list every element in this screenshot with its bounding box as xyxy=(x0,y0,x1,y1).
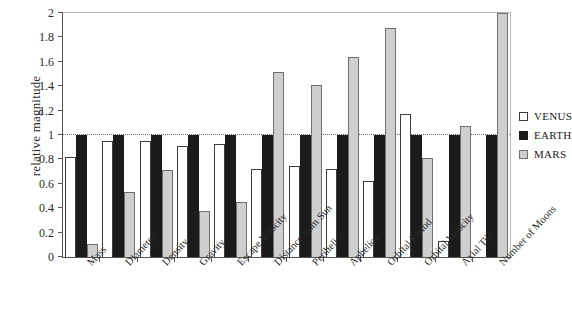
bar-earth[interactable] xyxy=(225,135,236,257)
bar-earth[interactable] xyxy=(188,135,199,257)
y-axis-tick-label: 1.8 xyxy=(39,30,54,45)
bar-group xyxy=(138,13,175,257)
bar-mars[interactable] xyxy=(385,28,396,257)
bar-group xyxy=(324,13,361,257)
x-axis-label: Orbital Period xyxy=(385,260,393,268)
x-axis-label: Distance from Sun xyxy=(272,260,280,268)
legend: VENUSEARTHMARS xyxy=(519,108,572,165)
legend-label: EARTH xyxy=(534,129,572,141)
bar-group xyxy=(473,13,510,257)
y-axis-tick-label: 1 xyxy=(48,128,54,143)
bar-venus[interactable] xyxy=(102,141,113,257)
x-axis-label: Number of Moons xyxy=(497,260,505,268)
x-axis-label: Mass xyxy=(85,260,93,268)
x-axis-label: Escape Velocity xyxy=(235,260,243,268)
legend-swatch-venus-icon xyxy=(519,112,528,121)
x-axis-label: Aphelion xyxy=(347,260,355,268)
bar-mars[interactable] xyxy=(497,13,508,257)
bar-earth[interactable] xyxy=(76,135,87,257)
x-axis-labels: MassDiameterDensityGravityEscape Velocit… xyxy=(62,258,511,324)
x-axis-label: Gravity xyxy=(197,260,205,268)
y-axis-tick-label: 1.6 xyxy=(39,54,54,69)
bar-mars[interactable] xyxy=(422,158,433,257)
x-axis-label: Axial Tilt xyxy=(459,260,467,268)
bar-group xyxy=(63,13,100,257)
bar-group xyxy=(212,13,249,257)
bar-venus[interactable] xyxy=(65,157,76,257)
y-axis-tick-label: 0.4 xyxy=(39,201,54,216)
bar-group xyxy=(361,13,398,257)
bar-mars[interactable] xyxy=(348,57,359,257)
legend-swatch-mars-icon xyxy=(519,150,528,159)
x-axis-label: Orbital Velocity xyxy=(422,260,430,268)
legend-item-earth[interactable]: EARTH xyxy=(519,127,572,143)
y-axis-tick-label: 0.8 xyxy=(39,152,54,167)
plot-frame: 00.20.40.60.811.21.41.61.82 xyxy=(62,12,511,258)
legend-swatch-earth-icon xyxy=(519,131,528,140)
legend-label: MARS xyxy=(534,148,566,160)
bar-group xyxy=(175,13,212,257)
y-axis-tick-label: 1.2 xyxy=(39,103,54,118)
legend-item-venus[interactable]: VENUS xyxy=(519,108,572,124)
bar-mars[interactable] xyxy=(162,170,173,257)
y-axis-tick-label: 0.2 xyxy=(39,225,54,240)
bar-earth[interactable] xyxy=(113,135,124,257)
x-axis-label: Perihelion xyxy=(310,260,318,268)
legend-item-mars[interactable]: MARS xyxy=(519,146,572,162)
bar-mars[interactable] xyxy=(460,126,471,257)
legend-label: VENUS xyxy=(534,110,572,122)
y-axis-tick-label: 2 xyxy=(48,6,54,21)
x-axis-label: Diameter xyxy=(123,260,131,268)
x-axis-label: Density xyxy=(160,260,168,268)
y-axis-tick-label: 1.4 xyxy=(39,79,54,94)
y-axis-tick-label: 0.6 xyxy=(39,176,54,191)
y-axis-tick-label: 0 xyxy=(48,250,54,265)
bar-group xyxy=(100,13,137,257)
